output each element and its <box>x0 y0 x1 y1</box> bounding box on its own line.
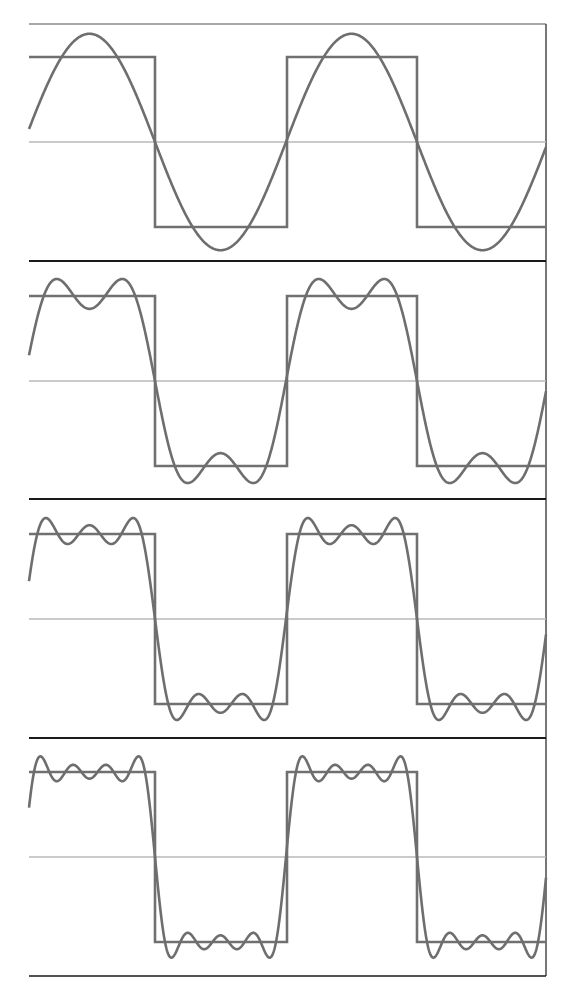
panel-1 <box>29 34 546 261</box>
panel-4 <box>29 756 546 957</box>
panel-2 <box>29 279 546 499</box>
panels-group <box>29 34 546 958</box>
fourier-square-wave-chart <box>0 0 576 1008</box>
panel-3 <box>29 518 546 738</box>
